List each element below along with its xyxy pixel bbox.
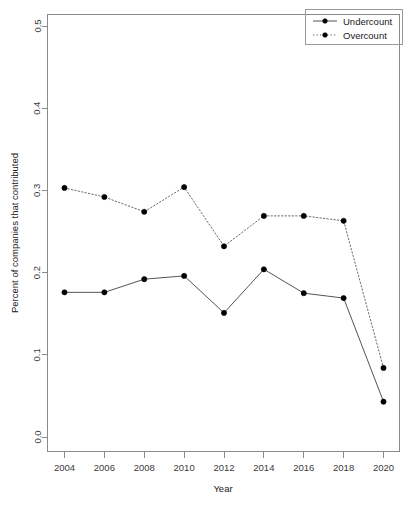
- y-tick-label: 0.0: [32, 430, 43, 443]
- data-point: [142, 209, 147, 214]
- data-point: [381, 365, 386, 370]
- x-tick-label: 2008: [134, 462, 155, 473]
- x-tick-label: 2018: [333, 462, 354, 473]
- y-axis-title: Percent of companies that contributed: [9, 153, 20, 313]
- series-path-overcount: [65, 187, 384, 368]
- data-point: [102, 290, 107, 295]
- x-tick-label: 2010: [174, 462, 195, 473]
- legend-marker-undercount: [323, 19, 328, 24]
- series-path-undercount: [65, 269, 384, 401]
- legend-label-undercount: Undercount: [343, 16, 392, 27]
- data-point: [182, 273, 187, 278]
- legend-marker-overcount: [323, 33, 328, 38]
- data-point: [102, 194, 107, 199]
- data-point: [261, 213, 266, 218]
- series-overcount: [62, 185, 386, 371]
- x-axis: 200420062008201020122014201620182020: [54, 452, 394, 474]
- x-tick-label: 2016: [293, 462, 314, 473]
- x-axis-title: Year: [213, 483, 232, 494]
- data-point: [341, 295, 346, 300]
- data-point: [221, 310, 226, 315]
- x-tick-label: 2004: [54, 462, 75, 473]
- data-point: [341, 218, 346, 223]
- x-tick-label: 2012: [213, 462, 234, 473]
- data-point: [142, 277, 147, 282]
- data-point: [182, 185, 187, 190]
- x-tick-label: 2014: [253, 462, 274, 473]
- line-chart: 0.00.10.20.30.40.5 200420062008201020122…: [0, 0, 412, 506]
- data-point: [221, 244, 226, 249]
- data-point: [301, 291, 306, 296]
- chart-container: 0.00.10.20.30.40.5 200420062008201020122…: [0, 0, 412, 506]
- series-undercount: [62, 267, 386, 405]
- data-point: [301, 213, 306, 218]
- y-tick-label: 0.4: [32, 102, 43, 115]
- data-point: [381, 399, 386, 404]
- y-tick-label: 0.2: [32, 266, 43, 279]
- y-tick-label: 0.5: [32, 19, 43, 32]
- legend-label-overcount: Overcount: [343, 30, 387, 41]
- data-point: [62, 185, 67, 190]
- data-point: [62, 290, 67, 295]
- x-tick-label: 2020: [373, 462, 394, 473]
- y-axis: 0.00.10.20.30.40.5: [32, 19, 48, 443]
- x-tick-label: 2006: [94, 462, 115, 473]
- data-point: [261, 267, 266, 272]
- y-tick-label: 0.1: [32, 348, 43, 361]
- y-tick-label: 0.3: [32, 184, 43, 197]
